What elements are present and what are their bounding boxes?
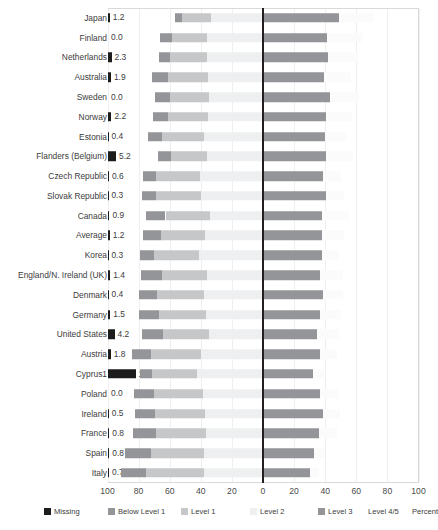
bar-segment-level-4/5 <box>317 330 338 340</box>
bar-segment-level-3 <box>263 152 326 162</box>
legend-item-level-3: Level 3 <box>318 508 353 516</box>
chart-row: Netherlands2.3 <box>0 48 434 68</box>
row-label-finland: Finland <box>80 33 107 41</box>
chart-row: Ireland0.5 <box>0 404 434 424</box>
missing-indicator: 1.8 <box>108 349 125 359</box>
bar-segment-below-level-1 <box>140 251 153 261</box>
missing-bar <box>108 349 111 359</box>
bar-segment-level-1 <box>162 132 204 142</box>
row-label-cyprus1: Cyprus1 <box>76 370 107 378</box>
legend-label: Level 2 <box>260 508 285 516</box>
missing-value-label: 0.9 <box>112 212 124 220</box>
bar-segment-level-2 <box>201 191 263 201</box>
missing-value-label: 0.8 <box>112 429 124 437</box>
row-label-czech-republic: Czech Republic <box>48 172 107 180</box>
missing-bar <box>108 290 109 300</box>
bar-segment-level-4/5 <box>325 132 346 142</box>
bar-segment-level-3 <box>263 330 317 340</box>
missing-indicator: 0.5 <box>108 409 123 419</box>
bar-segment-level-1 <box>155 409 204 419</box>
chart-row: Czech Republic0.6 <box>0 166 434 186</box>
bar-segment-level-4/5 <box>326 191 343 201</box>
chart-row: Spain0.8 <box>0 443 434 463</box>
x-tick-40-left: 40 <box>196 487 206 496</box>
missing-indicator: 0.4 <box>108 132 123 142</box>
bar-segment-level-4/5 <box>313 369 324 379</box>
bar-segment-level-4/5 <box>323 409 340 419</box>
bar-segment-level-2 <box>204 290 263 300</box>
x-tick-80-right: 80 <box>383 487 393 496</box>
bar-segment-level-2 <box>209 330 263 340</box>
row-label-norway: Norway <box>79 113 107 121</box>
bar-segment-level-2 <box>204 448 263 458</box>
bar-segment-below-level-1 <box>160 33 173 43</box>
missing-bar <box>108 369 136 379</box>
bar-segment-level-4/5 <box>323 290 344 300</box>
missing-value-label: 0.4 <box>112 291 124 299</box>
bar-segment-level-4/5 <box>339 13 375 23</box>
x-tick-60-left: 60 <box>165 487 175 496</box>
chart-row: Australia1.9 <box>0 67 434 87</box>
missing-indicator: 1.5 <box>108 310 125 320</box>
missing-indicator: 0.0 <box>108 92 123 102</box>
chart-row: Sweden0.0 <box>0 87 434 107</box>
bar-segment-below-level-1 <box>134 389 155 399</box>
chart-row: Japan1.2 <box>0 8 434 28</box>
bar-segment-level-3 <box>263 468 310 478</box>
bar-segment-level-3 <box>263 72 324 82</box>
missing-value-label: 0.6 <box>112 172 124 180</box>
bar-segment-level-3 <box>263 112 326 122</box>
missing-bar <box>108 53 112 63</box>
bar-segment-below-level-1 <box>142 330 163 340</box>
missing-bar <box>108 330 115 340</box>
chart-row: Slovak Republic0.3 <box>0 186 434 206</box>
bar-segment-level-2 <box>207 270 263 280</box>
bar-segment-level-4/5 <box>310 468 318 478</box>
missing-bar <box>108 211 109 221</box>
bar-segment-level-4/5 <box>330 92 360 102</box>
missing-indicator: 1.2 <box>108 231 125 241</box>
missing-value-label: 4.2 <box>118 330 130 338</box>
bar-segment-level-4/5 <box>320 349 337 359</box>
legend-item-level-2: Level 2 <box>250 508 285 516</box>
bar-segment-level-2 <box>204 468 263 478</box>
bar-segment-level-3 <box>263 369 313 379</box>
legend-swatch-icon <box>44 508 51 515</box>
chart-row: Norway2.2 <box>0 107 434 127</box>
bar-segment-below-level-1 <box>133 429 156 439</box>
bar-segment-below-level-1 <box>135 409 156 419</box>
row-label-netherlands: Netherlands <box>62 53 107 61</box>
row-label-germany: Germany <box>73 310 107 318</box>
chart-row: Finland0.0 <box>0 28 434 48</box>
bar-segment-below-level-1 <box>148 132 162 142</box>
bar-segment-below-level-1 <box>155 92 170 102</box>
missing-bar <box>108 112 111 122</box>
chart-row: Italy0.7 <box>0 463 434 483</box>
chart-row: Poland0.0 <box>0 384 434 404</box>
bar-segment-level-2 <box>210 211 263 221</box>
bar-segment-level-3 <box>263 171 323 181</box>
bar-segment-level-2 <box>201 349 263 359</box>
missing-value-label: 0.3 <box>111 251 123 259</box>
bar-segment-below-level-1 <box>139 290 157 300</box>
x-tick-20-left: 20 <box>227 487 237 496</box>
bar-segment-level-2 <box>206 429 263 439</box>
missing-indicator: 0.8 <box>108 448 124 458</box>
missing-bar <box>108 429 109 439</box>
chart-row: Average1.2 <box>0 226 434 246</box>
bar-segment-level-1 <box>156 171 200 181</box>
bar-segment-below-level-1 <box>143 171 157 181</box>
missing-value-label: 1.4 <box>113 271 125 279</box>
bar-segment-below-level-1 <box>139 310 160 320</box>
missing-value-label: 0.3 <box>111 192 123 200</box>
bar-segment-level-1 <box>154 251 200 261</box>
row-label-sweden: Sweden <box>77 93 107 101</box>
bar-segment-level-4/5 <box>327 33 361 43</box>
bar-segment-level-3 <box>263 251 322 261</box>
bar-segment-level-1 <box>151 448 204 458</box>
bar-segment-level-3 <box>263 53 328 63</box>
row-label-average: Average <box>76 231 107 239</box>
bar-segment-level-4/5 <box>320 389 338 399</box>
legend-swatch-icon <box>318 508 325 515</box>
bar-segment-below-level-1 <box>125 448 151 458</box>
